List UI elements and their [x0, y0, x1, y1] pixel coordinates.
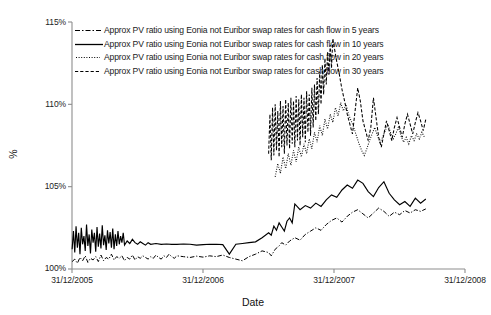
- legend-label-20-years: Approx PV ratio using Eonia not Euribor …: [104, 52, 384, 63]
- x-axis-title: Date: [198, 296, 308, 308]
- legend-key-solid-icon: [74, 39, 104, 50]
- legend-label-10-years: Approx PV ratio using Eonia not Euribor …: [104, 39, 384, 50]
- x-tick-label-2007: 31/12/2007: [289, 275, 379, 285]
- y-tick-label-110: 110%: [20, 99, 66, 109]
- y-tick-label-105: 105%: [20, 181, 66, 191]
- legend-label-5-years: Approx PV ratio using Eonia not Euribor …: [104, 25, 379, 36]
- y-tick-label-115: 115%: [20, 17, 66, 27]
- x-tick-label-2006: 31/12/2006: [158, 275, 248, 285]
- legend-item-5-years: Approx PV ratio using Eonia not Euribor …: [74, 24, 384, 38]
- legend-item-30-years: Approx PV ratio using Eonia not Euribor …: [74, 65, 384, 79]
- y-tick-label-100: 100%: [20, 263, 66, 273]
- series-line-5y: [72, 208, 426, 263]
- series-line-10y: [72, 180, 426, 254]
- chart-legend: Approx PV ratio using Eonia not Euribor …: [74, 24, 384, 78]
- legend-label-30-years: Approx PV ratio using Eonia not Euribor …: [104, 66, 384, 77]
- legend-item-10-years: Approx PV ratio using Eonia not Euribor …: [74, 38, 384, 52]
- legend-item-20-years: Approx PV ratio using Eonia not Euribor …: [74, 51, 384, 65]
- y-axis-title: %: [7, 131, 19, 177]
- legend-key-dotted-icon: [74, 52, 104, 63]
- x-tick-label-2008: 31/12/2008: [420, 275, 491, 285]
- legend-key-dash-dot-icon: [74, 25, 104, 36]
- legend-key-dashed-icon: [74, 66, 104, 77]
- x-tick-label-2005: 31/12/2005: [27, 275, 117, 285]
